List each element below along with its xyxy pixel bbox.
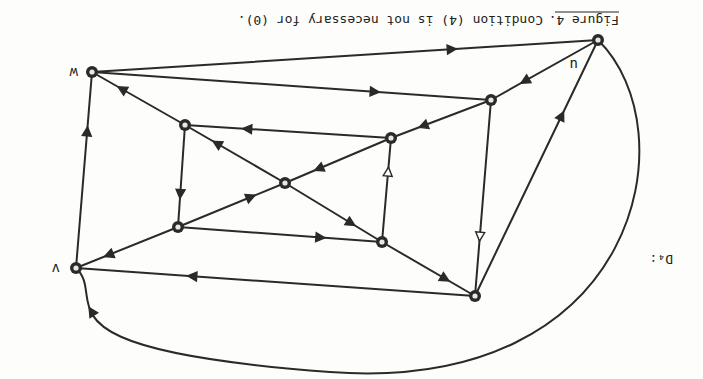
- arrowhead-icon: [345, 217, 355, 226]
- graph-label: D₄:: [650, 252, 673, 267]
- edge-e-b: [382, 138, 391, 242]
- arrowhead-icon: [439, 272, 449, 280]
- arrowhead-icon: [476, 232, 485, 241]
- edges-layer: [76, 40, 639, 373]
- edge-d-c: [178, 183, 285, 227]
- arrowhead-icon: [105, 249, 115, 257]
- arrowhead-icon: [82, 127, 91, 136]
- node-w: [86, 66, 98, 78]
- node-d: [172, 221, 184, 233]
- arrowhead-icon: [188, 272, 197, 281]
- edge-d-v: [76, 227, 178, 268]
- node-u: [592, 34, 604, 46]
- arrowhead-icon: [89, 308, 98, 318]
- arrowhead-icon: [213, 141, 223, 149]
- edge-b-a: [185, 125, 391, 138]
- arrowhead-icon: [419, 120, 429, 128]
- edge-c-e: [285, 183, 382, 242]
- edge-a-w: [92, 72, 185, 125]
- arrowhead-icon: [556, 112, 564, 122]
- caption-text: Condition (4) is not necessary for (0).: [238, 13, 543, 28]
- node-g: [469, 290, 481, 302]
- node-c: [279, 177, 291, 189]
- edge-v-w: [76, 72, 92, 268]
- arrowhead-icon: [316, 233, 325, 242]
- edge-c-a: [185, 125, 285, 183]
- edge-e-g: [382, 242, 475, 296]
- edge-b-c: [285, 138, 391, 183]
- arrowhead-icon: [383, 167, 392, 176]
- arrowhead-icon: [447, 45, 456, 54]
- nodes-layer: [70, 34, 604, 302]
- caption-label: Figure 4.: [549, 13, 619, 28]
- node-b: [385, 132, 397, 144]
- edge-u-f: [491, 40, 598, 100]
- node-label-w: w: [69, 65, 78, 81]
- arrowhead-icon: [521, 75, 531, 83]
- arrowheads-layer: [82, 45, 563, 318]
- arrowhead-icon: [118, 87, 128, 95]
- arrowhead-icon: [176, 189, 185, 198]
- edge-w-f: [92, 72, 491, 100]
- arrowhead-icon: [315, 163, 325, 171]
- node-a: [179, 119, 191, 131]
- arrowhead-icon: [245, 195, 255, 203]
- figure-4-diagram: wuv Figure 4. Condition (4) is not neces…: [0, 0, 703, 379]
- arrowhead-icon: [243, 125, 252, 134]
- node-label-v: v: [52, 261, 60, 277]
- edge-a-d: [178, 125, 185, 227]
- node-v: [70, 262, 82, 274]
- edge-w-u: [92, 40, 598, 72]
- node-label-u: u: [570, 57, 578, 73]
- node-e: [376, 236, 388, 248]
- edge-d-e: [178, 227, 382, 242]
- digraph-d4: wuv Figure 4. Condition (4) is not neces…: [0, 0, 703, 379]
- edge-f-b: [391, 100, 491, 138]
- edge-g-v: [76, 268, 475, 296]
- edge-g-u: [475, 40, 598, 296]
- node-f: [485, 94, 497, 106]
- arrowhead-icon: [370, 87, 379, 96]
